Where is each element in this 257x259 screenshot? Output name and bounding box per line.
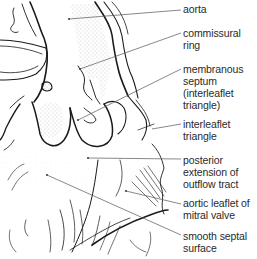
label-commissural-ring: commissural ring [183, 27, 241, 51]
label-membranous-septum: membranous septum (interleaflet triangle… [183, 63, 243, 111]
label-interleaflet-triangle: interleaflet triangle [183, 118, 230, 142]
label-posterior-extension: posterior extension of outflow tract [183, 154, 238, 190]
leader-aortic-leaflet [126, 191, 181, 204]
label-aorta: aorta [183, 3, 206, 15]
label-smooth-septal-surface: smooth septal surface [183, 230, 247, 254]
label-aortic-leaflet: aortic leaflet of mitral valve [183, 197, 250, 221]
leader-smooth-septal-surface [47, 175, 181, 235]
leader-posterior-extension [88, 158, 181, 159]
leader-interleaflet-triangle [152, 124, 181, 129]
anatomy-diagram: aorta commissural ring membranous septum… [0, 0, 257, 259]
